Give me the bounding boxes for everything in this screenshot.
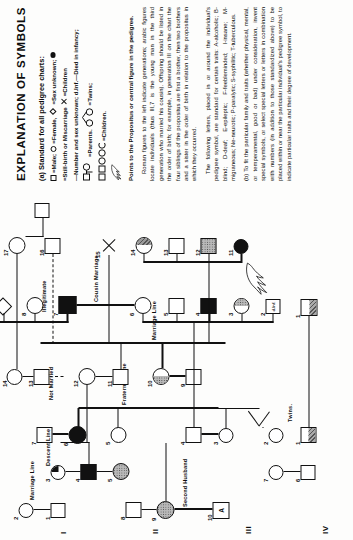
id-iii-5: 5	[162, 313, 168, 316]
sib-stub-iii-11	[240, 254, 242, 263]
symbol-iii-13-male	[168, 238, 184, 254]
symbol-ii-3-female	[218, 428, 233, 443]
symbol-i-3-female	[50, 465, 65, 480]
descent-to-iii-sibship	[193, 323, 194, 427]
symbol-i-10-male-alcoholic: A	[212, 502, 229, 519]
id-ii-4: 4	[179, 442, 185, 445]
sib-stub-iii-6	[142, 314, 143, 323]
sib-stub-iii-8	[34, 314, 35, 323]
label-d-inf: d.Inf.	[270, 300, 275, 313]
descent-to-iii-right-sibship	[208, 263, 209, 344]
label-second-husband: Second Husband	[181, 459, 187, 508]
sib-stub-iii-13	[176, 254, 177, 263]
fraternity-stub-ii-5	[117, 408, 118, 428]
spacer	[262, 427, 263, 428]
id-iii-12: 12	[194, 249, 200, 256]
rotated-stage: I II III IV 1 2 3 4 5	[0, 0, 353, 540]
sib-stub-iii-5	[176, 314, 177, 323]
hatch-fill	[308, 428, 315, 442]
id-i-6: 6	[294, 479, 300, 482]
symbol-iii-11-female-affected	[233, 239, 248, 254]
link-ii10-iii-spine	[161, 344, 163, 368]
symbol-iii-5-male	[168, 298, 184, 314]
descent-line-i-4	[88, 442, 89, 464]
half-fill	[153, 377, 168, 385]
marriage-line-i-3-4	[65, 471, 80, 472]
stillbirth-dot-icon	[50, 52, 55, 57]
legend-key-row-1: =Male; =Female, =Sex unknown; =Still-bir…	[48, 7, 79, 181]
half-fill	[136, 238, 151, 246]
legend-key-row-2: =Parents. =Twins;	[81, 7, 95, 181]
generation-label-iii: III	[243, 526, 252, 534]
label-descent-line: Descent Line	[44, 429, 50, 466]
fraternity-stub-ii-3	[225, 408, 226, 428]
symbol-iii-15-stillbirth	[100, 238, 117, 255]
sex-unknown-diamond-icon	[49, 108, 56, 115]
symbol-i-1-male	[50, 503, 65, 518]
quarter-fill	[51, 466, 58, 473]
symbol-i-6-male	[300, 465, 315, 480]
key-male-label: =Male;	[48, 154, 57, 173]
legend-title: EXPLANATION OF SYMBOLS	[0, 0, 26, 188]
symbol-iii-9-sex-unknown	[0, 297, 12, 315]
id-iii-13: 13	[162, 249, 168, 256]
legend-key-row-3: =Children.	[97, 7, 108, 181]
symbol-iii-1-male	[300, 299, 317, 316]
id-ii-13: 13	[27, 380, 33, 387]
propositus-hand-pointer-icon	[243, 262, 269, 296]
sib-stub-iii-14	[143, 254, 144, 263]
children-x-icon	[60, 98, 67, 105]
key-pointer-label: Points to the Propositus or central figu…	[125, 16, 134, 181]
sib-stub-iii-9	[3, 313, 4, 323]
sib-stub-iii-2	[272, 314, 273, 323]
symbol-i-9-female-affected	[156, 501, 174, 519]
marriage-line-i-1-2	[33, 509, 50, 510]
marriage-line-i-6-7	[283, 471, 300, 472]
fraternity-stub-ii-6	[77, 408, 79, 427]
symbol-i-2-female	[18, 503, 33, 518]
key-number-sex-label: —Number and sex unknown; d.Inf.—Died in …	[70, 29, 79, 181]
legend-key-row-4: Points to the Propositus or central figu…	[110, 7, 134, 181]
symbol-iii-6-female	[134, 297, 151, 314]
generation-label-ii: II	[150, 529, 159, 534]
label-illegitimate: Illegitimate	[40, 280, 46, 312]
sib-stub-iii-7	[66, 314, 68, 323]
key-sex-unknown-label: =Sex unknown;	[48, 60, 57, 105]
legend-paragraph-2: The following letters, placed in or arou…	[203, 7, 237, 181]
illegitimate-dashed-line	[52, 254, 53, 344]
id-ii-10: 10	[146, 380, 152, 387]
id-iii-4: 4	[194, 313, 200, 316]
id-i-9: 9	[150, 518, 156, 521]
symbol-iii-14-female	[135, 237, 152, 254]
id-iii-17: 17	[2, 249, 8, 256]
key-stillbirth-label: =Still-birth or Miscarriage	[59, 107, 68, 181]
generation-label-i: I	[58, 531, 67, 534]
symbol-iii-2-male-died-infancy: d.Inf.	[265, 299, 280, 314]
legend-panel: EXPLANATION OF SYMBOLS (a) Standard for …	[0, 0, 353, 188]
sibship-line-iii-left	[142, 321, 273, 323]
symbol-i-5-female-affected	[112, 463, 129, 480]
link-i9-ii12	[86, 385, 87, 443]
id-iii-14: 14	[129, 249, 135, 256]
id-iii-11: 11	[227, 250, 233, 256]
id-ii-12: 12	[72, 380, 78, 387]
pedigree-diagram: I II III IV 1 2 3 4 5	[0, 188, 353, 540]
marriage-line-ii-3-4	[201, 433, 218, 435]
link-ii1-iii1	[308, 316, 309, 427]
id-ii-6: 6	[62, 443, 68, 446]
marriage-line-ii-6-7	[52, 433, 68, 435]
id-i-4: 4	[74, 479, 80, 482]
male-square-icon	[50, 175, 56, 181]
id-iii-6: 6	[128, 313, 134, 316]
symbol-iii-7-propositus-male	[58, 296, 76, 314]
generation-label-iv: IV	[320, 525, 329, 534]
symbol-ii-1-male	[300, 427, 316, 443]
id-ii-5: 5	[104, 442, 110, 445]
id-iii-2: 2	[259, 313, 265, 316]
id-ii-14: 14	[1, 380, 7, 387]
symbol-ii-5-female	[110, 427, 126, 443]
hatch-fill	[309, 300, 317, 315]
trait-letter-a: A	[217, 503, 224, 518]
descent-iii-17	[42, 217, 43, 237]
symbol-iii-3-female	[233, 298, 249, 314]
